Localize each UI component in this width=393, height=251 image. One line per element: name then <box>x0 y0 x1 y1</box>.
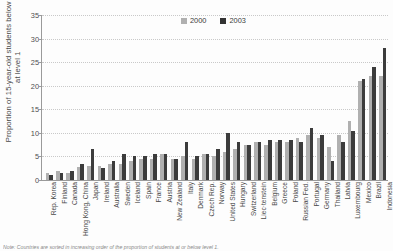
x-axis-label-cell: New Zealand <box>169 182 179 244</box>
plot-area: 05101520253035 <box>41 15 388 181</box>
x-axis-label-cell: Thailand <box>326 182 336 244</box>
bar-2003 <box>185 142 189 180</box>
x-axis-label-cell: United States <box>221 182 231 244</box>
x-axis-label-cell: Italy <box>179 182 189 244</box>
bar-2003 <box>80 164 84 181</box>
x-axis-label-cell: Belgium <box>263 182 273 244</box>
bar-group <box>294 15 304 180</box>
y-axis-tick-label: 10 <box>31 128 39 137</box>
bar-group <box>284 15 294 180</box>
bar-2003 <box>258 142 262 180</box>
bar-group <box>263 15 273 180</box>
chart-figure: Proportion of 15-year-old students below… <box>0 0 393 251</box>
x-axis-label-cell: Portugal <box>305 182 315 244</box>
bar-2003 <box>122 154 126 180</box>
x-axis-label-cell: Czech Rep. <box>200 182 210 244</box>
bar-group <box>190 15 200 180</box>
x-axis-label-cell: Ireland <box>95 182 105 244</box>
bar-group <box>127 15 137 180</box>
bar-group <box>107 15 117 180</box>
x-axis-labels: Rep. KoreaFinlandCanadaHong Kong, ChinaJ… <box>41 182 389 244</box>
bar-group <box>221 15 231 180</box>
bar-group <box>305 15 315 180</box>
x-axis-label-cell: Liec·tenstein <box>253 182 263 244</box>
x-axis-label-cell: Denmark <box>190 182 200 244</box>
bar-2003 <box>195 156 199 180</box>
bar-2003 <box>174 159 178 180</box>
x-axis-label-cell: Austria <box>158 182 168 244</box>
x-axis-label-cell: Australia <box>106 182 116 244</box>
bar-2003 <box>60 173 64 180</box>
x-axis-label-cell: Sweden <box>116 182 126 244</box>
x-axis-label-cell: Iceland <box>127 182 137 244</box>
x-axis-label-cell: Rep. Korea <box>43 182 53 244</box>
bar-2003 <box>289 140 293 180</box>
x-axis-label-cell: Indonesia <box>379 182 389 244</box>
bar-2003 <box>153 154 157 180</box>
bar-2003 <box>206 154 210 180</box>
bar-2003 <box>226 133 230 180</box>
y-axis-tick-label: 20 <box>31 81 39 90</box>
x-axis-label-cell: Spain <box>137 182 147 244</box>
bar-group <box>252 15 262 180</box>
bar-group <box>65 15 75 180</box>
bar-group <box>346 15 356 180</box>
x-axis-tick-label: Indonesia <box>387 182 393 211</box>
bar-group <box>86 15 96 180</box>
bar-2003 <box>310 128 314 180</box>
bar-2003 <box>299 142 303 180</box>
bar-group <box>159 15 169 180</box>
bar-groups <box>42 15 388 180</box>
bar-2003 <box>164 154 168 180</box>
y-axis-tick-mark <box>39 180 42 181</box>
bar-group <box>357 15 367 180</box>
bar-2003 <box>112 161 116 180</box>
bar-2003 <box>237 142 241 180</box>
bar-group <box>169 15 179 180</box>
bar-group <box>200 15 210 180</box>
bar-group <box>378 15 388 180</box>
x-axis-label-cell: Norway <box>211 182 221 244</box>
x-axis-label-cell: Switzerland <box>242 182 252 244</box>
y-axis-tick-label: 35 <box>31 11 39 20</box>
bar-2003 <box>101 168 105 180</box>
x-axis-label-cell: Russian Fed. <box>295 182 305 244</box>
bar-2003 <box>383 48 387 180</box>
y-axis-tick-label: 25 <box>31 58 39 67</box>
bar-2003 <box>143 156 147 180</box>
y-axis-tick-label: 30 <box>31 34 39 43</box>
bar-2003 <box>278 140 282 180</box>
bar-group <box>148 15 158 180</box>
bar-group <box>138 15 148 180</box>
x-axis-label-cell: Latvia <box>337 182 347 244</box>
bar-2003 <box>133 156 137 180</box>
x-axis-label-cell: Germany <box>316 182 326 244</box>
x-axis-label-cell: France <box>148 182 158 244</box>
bar-2003 <box>372 67 376 180</box>
bar-2003 <box>70 171 74 180</box>
bar-2003 <box>341 142 345 180</box>
bar-group <box>75 15 85 180</box>
bar-2003 <box>331 161 335 180</box>
chart-note: Note: Countries are sorted in increasing… <box>3 244 390 251</box>
bar-2003 <box>216 149 220 180</box>
bar-group <box>315 15 325 180</box>
x-axis-label-cell: Hong Kong, China <box>74 182 84 244</box>
bar-group <box>54 15 64 180</box>
bar-2003 <box>320 135 324 180</box>
x-axis-label-cell: Greece <box>274 182 284 244</box>
bar-2003 <box>362 79 366 180</box>
x-axis-label-cell: Brazil <box>368 182 378 244</box>
bar-group <box>273 15 283 180</box>
bar-2003 <box>351 131 355 181</box>
bar-group <box>117 15 127 180</box>
bar-group <box>336 15 346 180</box>
bar-group <box>211 15 221 180</box>
x-axis-label-cell: Japan <box>85 182 95 244</box>
x-axis-label-cell: Mexico <box>358 182 368 244</box>
bar-group <box>367 15 377 180</box>
x-axis-label-cell: Hungary <box>232 182 242 244</box>
x-axis-label-cell: Poland <box>284 182 294 244</box>
bar-2003 <box>91 149 95 180</box>
x-axis-label-cell: Finland <box>53 182 63 244</box>
